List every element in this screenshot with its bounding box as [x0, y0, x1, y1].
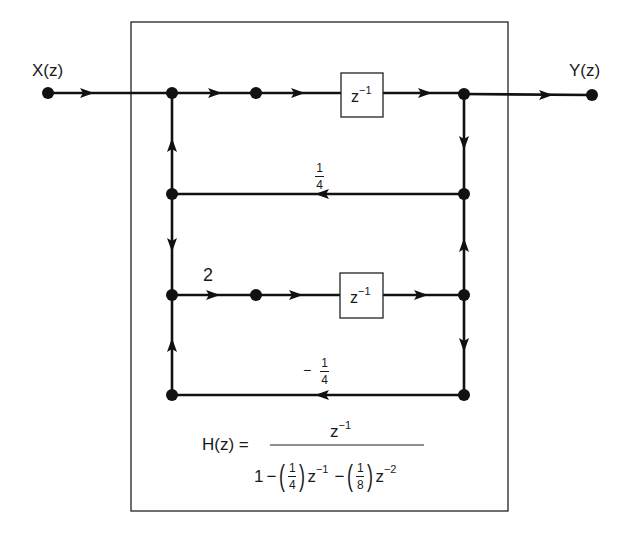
formula-lhs: H(z) = [202, 436, 249, 453]
arrowheads [80, 88, 553, 400]
coef-numerator: 1 [357, 462, 364, 474]
delay-base: z [351, 88, 359, 105]
system-frame [131, 22, 508, 511]
delay-base: z [350, 289, 358, 306]
gain-upper-feedback: 1 4 [315, 162, 324, 191]
gain-denominator: 4 [316, 179, 323, 191]
formula-operator: − [266, 468, 276, 485]
delay-label-top: z−1 [351, 89, 372, 105]
formula-base: z [307, 468, 316, 485]
gain-lower-forward: 2 [203, 266, 213, 284]
gain-fraction-bar [320, 371, 329, 372]
gain-lower-feedback-sign: − [303, 363, 311, 377]
node-input [42, 87, 54, 99]
formula-exponent: −1 [316, 464, 329, 475]
formula-coef1: 1 4 [288, 462, 296, 491]
coef-bar [288, 476, 296, 477]
paren-close: ) [367, 461, 373, 491]
gain-lower-feedback: 1 4 [320, 357, 329, 386]
gain-denominator: 4 [321, 374, 328, 386]
formula-base: z [375, 468, 384, 485]
node [458, 289, 470, 301]
formula-const: 1 [254, 468, 263, 485]
node [250, 87, 262, 99]
paren-open: ( [347, 461, 353, 491]
gain-numerator: 1 [321, 357, 328, 369]
node [166, 389, 178, 401]
formula-base: z [330, 422, 339, 441]
nodes [42, 87, 598, 401]
paren-close: ) [299, 461, 305, 491]
formula-denominator: 1 − ( 1 4 ) z−1 − ( 1 8 ) z−2 [254, 454, 396, 498]
coef-numerator: 1 [289, 462, 296, 474]
formula-coef2: 1 8 [356, 462, 364, 491]
branch-output [464, 94, 592, 95]
input-label: X(z) [32, 62, 63, 79]
gain-numerator: 1 [316, 162, 323, 174]
coef-denominator: 8 [357, 479, 364, 491]
coef-bar [356, 476, 364, 477]
delay-label-lower: z−1 [350, 290, 371, 306]
node-output [586, 89, 598, 101]
output-label: Y(z) [569, 62, 600, 79]
delay-exponent: −1 [359, 84, 372, 96]
node [458, 188, 470, 200]
formula-numerator: z−1 [330, 423, 351, 440]
coef-denominator: 4 [289, 479, 296, 491]
paren-open: ( [279, 461, 285, 491]
node [166, 87, 178, 99]
gain-fraction-bar [315, 176, 324, 177]
node [250, 289, 262, 301]
node [166, 289, 178, 301]
delay-exponent: −1 [358, 285, 371, 297]
node [458, 389, 470, 401]
branches [48, 93, 592, 395]
formula-exponent: −1 [339, 419, 352, 431]
node [166, 188, 178, 200]
formula-exponent: −2 [384, 464, 397, 475]
formula-operator: − [334, 468, 344, 485]
node [458, 88, 470, 100]
